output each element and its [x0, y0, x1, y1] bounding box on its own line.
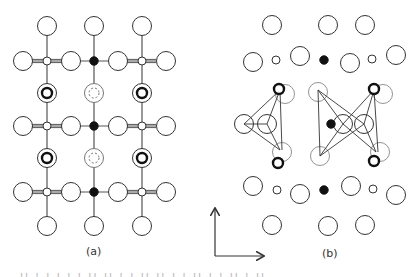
large-atom-circle	[38, 17, 57, 36]
large-atom-circle	[342, 177, 361, 196]
panel-b-diagram	[235, 16, 406, 236]
bold-ring-atom	[274, 84, 284, 94]
large-atom-circle	[62, 183, 81, 202]
ring-atom-outer	[85, 84, 104, 103]
bold-ring-atom	[369, 84, 379, 94]
caption-fragment: ıı ı ı ı ı ı ıı ıı ı ı ıı ıı ı ı ıı ı ı …	[0, 270, 420, 277]
projection-line	[318, 90, 364, 124]
large-atom-circle	[14, 117, 33, 136]
large-atom-circle	[109, 183, 128, 202]
large-atom-circle	[14, 183, 33, 202]
large-atom-circle	[244, 177, 263, 196]
metal-atom-black	[320, 186, 328, 194]
panel-a-label: (a)	[86, 245, 101, 258]
large-atom-circle	[14, 52, 33, 71]
panel-a-diagram	[14, 17, 176, 236]
truncated-caption: ıı ı ı ı ı ı ıı ıı ı ı ıı ıı ı ı ıı ı ı …	[0, 270, 420, 277]
metal-atom-black	[90, 122, 98, 130]
large-atom-circle	[319, 16, 338, 35]
projection-line	[280, 90, 282, 150]
large-atom-circle	[356, 216, 375, 235]
large-atom-circle	[157, 183, 176, 202]
projection-line	[267, 124, 280, 150]
small-atom-circle	[138, 122, 146, 130]
ring-atom-outer	[85, 149, 104, 168]
small-atom-circle	[43, 122, 51, 130]
large-atom-circle	[157, 52, 176, 71]
large-atom-circle	[387, 46, 406, 65]
large-atom-circle	[291, 47, 310, 66]
large-atom-circle	[62, 52, 81, 71]
ring-atom-outer	[133, 84, 152, 103]
large-atom-circle	[263, 16, 282, 35]
large-atom-circle	[62, 117, 81, 136]
projection-line	[320, 124, 364, 156]
projection-line	[318, 90, 343, 124]
projection-line	[318, 90, 320, 156]
ring-atom-outer	[38, 84, 57, 103]
large-atom-circle	[356, 16, 375, 35]
large-atom-circle	[38, 217, 57, 236]
projection-line	[343, 124, 376, 152]
panel-b-label: (b)	[322, 247, 338, 260]
small-atom-circle	[138, 188, 146, 196]
large-atom-circle	[244, 53, 263, 72]
metal-atom-black	[327, 120, 335, 128]
large-atom-circle	[387, 186, 406, 205]
small-atom-circle	[43, 188, 51, 196]
large-atom-circle	[157, 117, 176, 136]
projection-line	[244, 124, 280, 150]
metal-atom-black	[90, 188, 98, 196]
small-atom-circle	[43, 57, 51, 65]
bold-ring-atom	[369, 156, 379, 166]
crystal-structure-figure	[0, 0, 420, 277]
metal-atom-black	[90, 57, 98, 65]
projection-line	[364, 124, 376, 152]
small-atom-circle	[138, 57, 146, 65]
large-atom-circle	[85, 17, 104, 36]
large-atom-circle	[85, 217, 104, 236]
small-atom-circle	[272, 56, 280, 64]
large-atom-circle	[263, 216, 282, 235]
large-atom-circle	[133, 17, 152, 36]
large-atom-circle	[109, 52, 128, 71]
large-atom-circle	[133, 217, 152, 236]
large-atom-circle	[319, 217, 338, 236]
large-atom-circle	[109, 117, 128, 136]
bold-ring-atom	[273, 158, 283, 168]
projection-line	[320, 124, 343, 156]
small-atom-circle	[368, 55, 376, 63]
large-atom-circle	[291, 185, 310, 204]
axes-arrows	[215, 209, 263, 256]
ring-atom-outer	[133, 149, 152, 168]
metal-atom-black	[320, 56, 328, 64]
small-atom-circle	[369, 185, 377, 193]
small-atom-circle	[273, 186, 281, 194]
large-atom-circle	[341, 54, 360, 73]
ring-atom-outer	[38, 149, 57, 168]
projection-line	[374, 90, 378, 152]
